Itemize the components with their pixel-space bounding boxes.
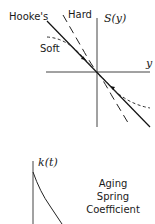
caption-line-3: Coefficient xyxy=(86,204,140,215)
spring-force-diagrams: Hooke's Hard Soft S(y) y k(t) Aging Spri… xyxy=(0,0,155,224)
caption-line-2: Spring xyxy=(97,191,129,202)
aging-spring-diagram: k(t) Aging Spring Coefficient xyxy=(33,156,140,224)
hookes-label: Hooke's xyxy=(9,11,48,22)
k-axis-label: k(t) xyxy=(38,156,58,169)
k-decay-curve xyxy=(33,172,62,224)
soft-label: Soft xyxy=(40,43,60,54)
hard-label: Hard xyxy=(68,9,92,20)
restoring-force-diagram: Hooke's Hard Soft S(y) y xyxy=(9,9,153,127)
y-axis-label: y xyxy=(145,57,153,70)
caption-line-1: Aging xyxy=(99,178,128,189)
s-axis-label: S(y) xyxy=(104,12,126,25)
